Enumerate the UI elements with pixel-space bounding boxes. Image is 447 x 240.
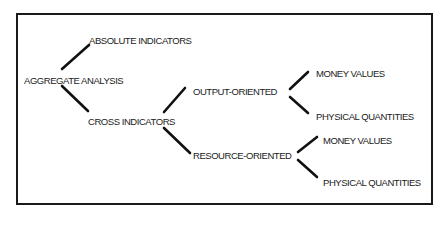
edge-resource-physical <box>298 160 317 177</box>
node-cross-indicators: CROSS INDICATORS <box>88 116 175 127</box>
node-output-physical-quantities: PHYSICAL QUANTITIES <box>316 111 414 122</box>
edge-output-physical <box>290 97 308 113</box>
edge-aggregate-cross <box>62 86 88 111</box>
edge-aggregate-absolute <box>62 45 89 69</box>
node-output-oriented: OUTPUT-ORIENTED <box>193 86 277 97</box>
edge-output-money <box>290 72 308 89</box>
edge-cross-output <box>164 88 185 112</box>
edge-cross-resource <box>164 128 190 153</box>
node-resource-money-values: MONEY VALUES <box>323 135 392 146</box>
node-aggregate-analysis: AGGREGATE ANALYSIS <box>24 75 123 86</box>
node-output-money-values: MONEY VALUES <box>316 68 385 79</box>
node-absolute-indicators: ABSOLUTE INDICATORS <box>89 35 191 46</box>
node-resource-physical-quantities: PHYSICAL QUANTITIES <box>323 177 421 188</box>
edge-resource-money <box>298 137 317 152</box>
node-resource-oriented: RESOURCE-ORIENTED <box>193 150 291 161</box>
